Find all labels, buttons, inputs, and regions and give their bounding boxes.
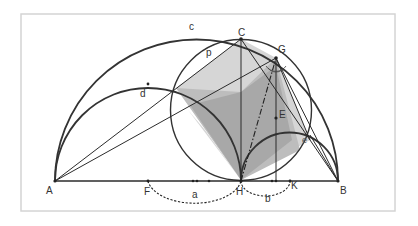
label-a: a bbox=[192, 189, 198, 200]
point-H bbox=[239, 179, 242, 182]
point-A bbox=[53, 179, 56, 182]
point-tick-1 bbox=[192, 180, 195, 183]
label-C: C bbox=[238, 27, 245, 38]
geometry-diagram: A B C G E F H K c d p e a b bbox=[0, 0, 418, 226]
label-G: G bbox=[278, 44, 286, 55]
label-E: E bbox=[279, 109, 286, 120]
point-tick-4 bbox=[271, 180, 274, 183]
label-b: b bbox=[265, 193, 271, 204]
point-tick-3 bbox=[208, 180, 211, 183]
point-F bbox=[147, 180, 150, 183]
point-G bbox=[274, 56, 278, 60]
point-B bbox=[336, 179, 339, 182]
point-d-top bbox=[147, 83, 150, 86]
label-H: H bbox=[236, 186, 243, 197]
label-e: e bbox=[302, 135, 307, 145]
label-p: p bbox=[206, 47, 212, 58]
label-d: d bbox=[140, 88, 146, 99]
point-tick-5 bbox=[275, 180, 278, 183]
label-F: F bbox=[144, 186, 150, 197]
label-K: K bbox=[291, 180, 298, 191]
point-tick-2 bbox=[196, 180, 199, 183]
point-E bbox=[274, 116, 277, 119]
label-c: c bbox=[189, 21, 194, 32]
label-A: A bbox=[46, 185, 53, 196]
label-B: B bbox=[340, 185, 347, 196]
